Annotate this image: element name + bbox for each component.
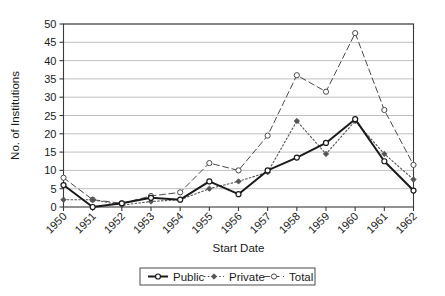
x-axis-tick-label: 1961 xyxy=(364,210,390,236)
data-point-marker xyxy=(265,133,270,138)
series-public xyxy=(61,117,416,210)
data-point-marker xyxy=(149,195,154,200)
x-axis-tick-label: 1950 xyxy=(43,210,69,236)
y-axis-tick-label: 20 xyxy=(44,128,56,140)
data-point-marker xyxy=(353,31,358,36)
chart-container: 05101520253035404550 1950195119521953195… xyxy=(0,0,445,296)
y-axis-tick-label: 0 xyxy=(50,201,56,213)
y-axis-tick-label: 25 xyxy=(44,110,56,122)
data-point-marker xyxy=(294,73,299,78)
x-axis-tick-label: 1951 xyxy=(72,210,98,236)
data-point-marker xyxy=(382,107,387,112)
series-line xyxy=(64,33,414,203)
data-point-marker xyxy=(353,117,358,122)
data-point-marker xyxy=(61,183,66,188)
data-point-marker xyxy=(411,188,416,193)
data-series-layer xyxy=(61,31,416,210)
data-point-marker xyxy=(294,155,299,160)
x-axis-tick-label: 1958 xyxy=(276,210,302,236)
y-axis-tick-label: 5 xyxy=(50,183,56,195)
x-axis-tick-label: 1962 xyxy=(393,210,419,236)
y-axis-tick-label: 35 xyxy=(44,73,56,85)
y-axis-tick-label: 10 xyxy=(44,164,56,176)
data-point-marker xyxy=(271,274,276,279)
x-axis-tick-label: 1955 xyxy=(189,210,215,236)
data-point-marker xyxy=(61,175,66,180)
data-point-marker xyxy=(178,197,183,202)
x-axis-tick-label: 1953 xyxy=(131,210,157,236)
data-point-marker xyxy=(207,179,212,184)
y-axis-tick-label: 30 xyxy=(44,91,56,103)
legend-label: Total xyxy=(289,271,313,283)
data-point-marker xyxy=(382,159,387,164)
y-axis-tick-label: 45 xyxy=(44,36,56,48)
x-axis-tick-label: 1960 xyxy=(335,210,361,236)
chart-legend: PublicPrivateTotal xyxy=(140,268,315,285)
data-point-marker xyxy=(323,89,328,94)
gridlines-group xyxy=(64,24,414,189)
x-axis-tick-label: 1954 xyxy=(160,210,186,236)
data-point-marker xyxy=(411,177,416,182)
x-axis-tick-label: 1952 xyxy=(101,210,127,236)
y-axis-tick-labels: 05101520253035404550 xyxy=(44,18,56,213)
x-axis-tick-marks xyxy=(64,207,414,211)
data-point-marker xyxy=(61,197,66,202)
legend-label: Private xyxy=(229,271,265,283)
data-point-marker xyxy=(236,179,241,184)
data-point-marker xyxy=(156,274,161,279)
x-axis-tick-labels: 1950195119521953195419551956195719581959… xyxy=(43,210,419,236)
line-chart: 05101520253035404550 1950195119521953195… xyxy=(0,0,445,296)
data-point-marker xyxy=(411,162,416,167)
data-point-marker xyxy=(236,192,241,197)
data-point-marker xyxy=(265,168,270,173)
data-point-marker xyxy=(324,140,329,145)
y-axis-tick-label: 40 xyxy=(44,55,56,67)
data-point-marker xyxy=(119,201,124,206)
legend-label: Public xyxy=(173,271,205,283)
data-point-marker xyxy=(236,168,241,173)
y-axis-tick-label: 15 xyxy=(44,146,56,158)
x-axis-tick-label: 1957 xyxy=(247,210,273,236)
data-point-marker xyxy=(207,186,212,191)
data-point-marker xyxy=(90,205,95,210)
x-axis-tick-label: 1959 xyxy=(306,210,332,236)
x-axis-tick-label: 1956 xyxy=(218,210,244,236)
data-point-marker xyxy=(207,160,212,165)
data-point-marker xyxy=(178,190,183,195)
x-axis-title: Start Date xyxy=(213,242,265,254)
y-axis-tick-label: 50 xyxy=(44,18,56,30)
y-axis-title: No. of Institutions xyxy=(9,71,21,160)
